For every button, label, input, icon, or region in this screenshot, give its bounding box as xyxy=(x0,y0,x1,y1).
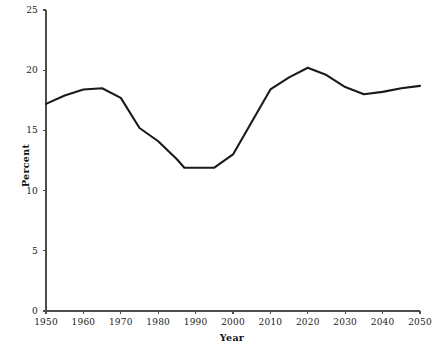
x-axis-tick-label: 1980 xyxy=(146,317,170,327)
x-axis-tick-label: 2040 xyxy=(371,317,395,327)
x-axis-tick-label: 1990 xyxy=(184,317,208,327)
y-axis-tick-label: 10 xyxy=(12,186,38,196)
x-axis-tick-label: 2030 xyxy=(333,317,357,327)
y-axis-tick-label: 25 xyxy=(12,5,38,15)
x-axis-tick-label: 1960 xyxy=(72,317,96,327)
chart-line-series xyxy=(46,68,420,168)
x-axis-title: Year xyxy=(220,332,244,343)
x-axis-tick-label: 2000 xyxy=(221,317,245,327)
y-axis-tick-label: 15 xyxy=(12,125,38,135)
chart-series-group xyxy=(46,68,420,168)
y-axis-tick-label: 5 xyxy=(12,246,38,256)
x-axis-tick-label: 1950 xyxy=(34,317,58,327)
x-axis-tick-label: 1970 xyxy=(109,317,133,327)
x-axis-tick-label: 2010 xyxy=(259,317,283,327)
x-axis-tick-label: 2050 xyxy=(408,317,432,327)
y-axis-tick-label: 20 xyxy=(12,65,38,75)
x-axis-tick-label: 2020 xyxy=(296,317,320,327)
y-axis-tick-label: 0 xyxy=(12,306,38,316)
y-axis-title: Percent xyxy=(20,144,31,187)
chart-axes xyxy=(46,10,420,311)
